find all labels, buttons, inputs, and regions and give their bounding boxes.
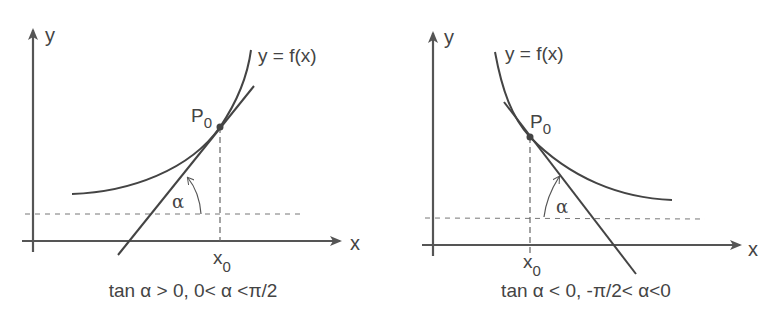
p0-label: P0 (530, 111, 551, 137)
p0-label: P0 (191, 105, 212, 131)
curve-label: y = f(x) (505, 43, 564, 64)
alpha-label: α (172, 191, 184, 212)
point-p0 (527, 134, 534, 141)
point-p0 (217, 124, 224, 131)
x-axis-label: x (748, 238, 758, 260)
x0-label: x0 (213, 247, 231, 275)
y-axis-label: y (444, 26, 454, 48)
caption: tan α < 0, -π/2< α<0 (501, 280, 671, 301)
x0-label: x0 (523, 251, 541, 279)
tangent-line (118, 86, 254, 255)
y-axis-label: y (45, 24, 55, 46)
curve-label: y = f(x) (258, 45, 317, 66)
horizontal-dashed-line (425, 218, 705, 219)
tangent-line (504, 102, 636, 274)
diagram-decreasing: y x y = f(x) P0 x0 α tan α < 0, -π/2< α<… (422, 26, 758, 301)
x-axis-label: x (350, 232, 360, 254)
tangent-slope-diagrams: y x y = f(x) P0 x0 α tan α > 0, 0< α <π/… (0, 0, 777, 318)
diagram-increasing: y x y = f(x) P0 x0 α tan α > 0, 0< α <π/… (22, 24, 360, 301)
alpha-label: α (556, 196, 568, 217)
angle-arc (188, 178, 201, 214)
caption: tan α > 0, 0< α <π/2 (109, 280, 278, 301)
